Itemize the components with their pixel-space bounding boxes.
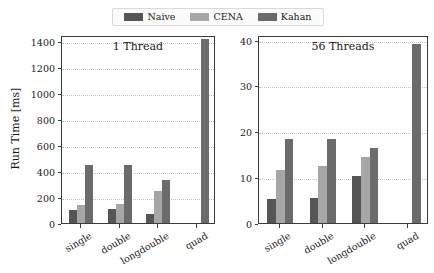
y-tick-label: 200 <box>21 193 55 204</box>
legend-entry-cena: CENA <box>190 12 242 22</box>
y-tick-label: 10 <box>218 173 252 184</box>
y-tick-mark <box>255 132 259 133</box>
y-tick-mark <box>58 68 62 69</box>
y-tick-label: 20 <box>218 127 252 138</box>
y-tick-mark <box>255 224 259 225</box>
x-tick-mark <box>407 224 408 228</box>
bar-cena-single <box>77 205 85 223</box>
y-tick-label: 1200 <box>21 63 55 74</box>
y-tick-mark <box>58 146 62 147</box>
gridline <box>62 95 214 96</box>
y-tick-mark <box>58 172 62 173</box>
y-tick-label: 1000 <box>21 89 55 100</box>
x-tick-mark <box>279 224 280 228</box>
y-tick-label: 400 <box>21 167 55 178</box>
bar-kahan-quad <box>412 44 421 223</box>
bar-cena-single <box>276 170 285 223</box>
bar-kahan-longdouble <box>370 148 379 223</box>
y-tick-mark <box>255 86 259 87</box>
bar-naive-double <box>310 198 319 223</box>
gridline <box>62 69 214 70</box>
y-tick-mark <box>58 198 62 199</box>
bar-cena-longdouble <box>361 157 370 223</box>
y-tick-label: 0 <box>218 219 252 230</box>
panel-title-right: 56 Threads <box>258 40 428 53</box>
y-tick-label: 30 <box>218 81 252 92</box>
x-tick-mark <box>157 224 158 228</box>
y-tick-mark <box>58 120 62 121</box>
panel-title-left: 1 Thread <box>61 40 215 53</box>
x-tick-mark <box>364 224 365 228</box>
legend-swatch-naive <box>124 13 143 21</box>
bar-naive-longdouble <box>146 214 154 223</box>
bar-kahan-double <box>124 165 132 223</box>
y-tick-mark <box>58 224 62 225</box>
gridline <box>259 133 427 134</box>
bar-naive-double <box>108 209 116 223</box>
legend-swatch-cena <box>190 13 209 21</box>
bar-cena-longdouble <box>154 191 162 223</box>
bar-naive-longdouble <box>352 176 361 223</box>
gridline <box>259 87 427 88</box>
y-tick-label: 600 <box>21 141 55 152</box>
y-tick-label: 0 <box>21 219 55 230</box>
bar-kahan-longdouble <box>162 180 170 223</box>
bar-kahan-single <box>285 139 294 223</box>
gridline <box>62 147 214 148</box>
x-tick-mark <box>196 224 197 228</box>
x-tick-mark <box>119 224 120 228</box>
bar-kahan-double <box>327 139 336 223</box>
x-tick-mark <box>322 224 323 228</box>
legend-label-cena: CENA <box>213 12 242 22</box>
plot-area-right <box>258 36 428 224</box>
legend-entry-kahan: Kahan <box>258 12 312 22</box>
figure: Naive CENA Kahan Run Time [ms] 1 Thread … <box>0 0 434 273</box>
bar-kahan-quad <box>201 39 209 223</box>
y-tick-label: 40 <box>218 35 252 46</box>
bar-cena-double <box>318 166 327 223</box>
y-axis-title: Run Time [ms] <box>9 90 22 170</box>
bar-kahan-single <box>85 165 93 223</box>
plot-area-left <box>61 36 215 224</box>
legend-swatch-kahan <box>258 13 277 21</box>
bar-cena-double <box>116 204 124 223</box>
y-tick-label: 1400 <box>21 37 55 48</box>
x-tick-mark <box>80 224 81 228</box>
y-tick-mark <box>255 178 259 179</box>
bar-naive-single <box>267 199 276 223</box>
bar-naive-single <box>69 210 77 223</box>
legend-label-kahan: Kahan <box>281 12 312 22</box>
legend-entry-naive: Naive <box>124 12 175 22</box>
gridline <box>62 121 214 122</box>
y-tick-mark <box>58 94 62 95</box>
y-tick-label: 800 <box>21 115 55 126</box>
chart-legend: Naive CENA Kahan <box>112 8 324 26</box>
legend-label-naive: Naive <box>147 12 175 22</box>
